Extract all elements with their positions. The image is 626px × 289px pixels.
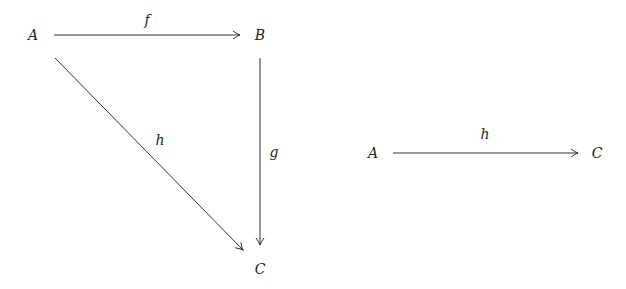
composite-node-c: C (592, 146, 603, 160)
diagram-canvas (0, 0, 626, 289)
arrow-h-diagonal (55, 58, 243, 250)
arrow-label-h: h (155, 133, 164, 147)
composite-node-a: A (368, 146, 378, 160)
arrow-label-f: f (144, 13, 149, 27)
composite-arrow-label-h: h (480, 127, 489, 141)
node-c: C (255, 262, 266, 276)
node-b: B (255, 28, 265, 42)
arrow-label-g: g (270, 145, 279, 159)
node-a: A (28, 28, 38, 42)
